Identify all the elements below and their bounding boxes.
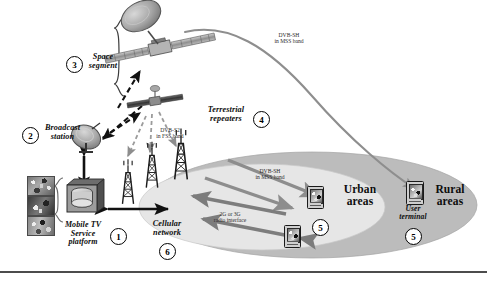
- callout-number-user-terminal-rural: 5: [405, 228, 422, 245]
- mobile-tv-platform-icon: [67, 179, 104, 212]
- rural-areas-label-line2: areas: [437, 195, 463, 207]
- user-handset-cellular: [284, 225, 301, 248]
- repeater-downlink-label-line2: in MSS band: [255, 174, 284, 180]
- user-handset-urban: [307, 186, 324, 209]
- rural-areas-label-line1: Rural: [435, 183, 464, 195]
- diagram-canvas: 3 Space segment 2 Broadcast station Mobi…: [0, 0, 487, 282]
- space-segment-label-line1: Space: [93, 52, 114, 61]
- repeater-downlink-label-line1: DVB-SH: [260, 168, 281, 174]
- user-terminal-label-line2: terminal: [399, 212, 426, 221]
- callout-number-space-segment: 3: [66, 56, 83, 73]
- feeder-uplink-label-line1: DVB-S2: [160, 127, 180, 133]
- mobile-tv-platform-label: Mobile TV Service platform: [55, 221, 111, 247]
- urban-areas-label: Urban areas: [333, 183, 387, 208]
- urban-areas-label-line2: areas: [347, 195, 373, 207]
- terrestrial-repeaters-label: Terrestrial repeaters: [199, 106, 253, 124]
- feeder-uplink-label-line2: in FSS band: [156, 133, 183, 139]
- content-sources-brace: [54, 178, 63, 222]
- callout-number-mobile-tv-platform: 1: [110, 228, 127, 245]
- content-thumbnail-1: [27, 176, 55, 196]
- callout-number-broadcast-station: 2: [22, 127, 39, 144]
- content-thumbnail-2: [27, 196, 55, 216]
- cellular-network-label-line2: network: [153, 228, 181, 237]
- broadcast-station-label: Broadcast station: [40, 124, 85, 142]
- feeder-uplink-label: DVB-S2 in FSS band: [144, 127, 196, 140]
- terrestrial-repeaters-label-line2: repeaters: [210, 114, 242, 123]
- content-thumbnail-3: [27, 216, 55, 236]
- callout-number-user-terminal-urban: 5: [312, 219, 329, 236]
- space-segment-label-line2: segment: [89, 61, 117, 70]
- mobile-tv-platform-label-line3: platform: [68, 237, 97, 246]
- rural-areas-label: Rural areas: [424, 183, 476, 208]
- cellular-return-label-line1: 2G or 3G: [219, 211, 240, 217]
- broadcast-station-label-line1: Broadcast: [45, 123, 80, 132]
- satellite-downlink-label: DVB-SH in MSS band: [258, 32, 320, 45]
- repeater-downlink-label: DVB-SH in MSS band: [240, 168, 300, 181]
- cellular-network-tower: [122, 159, 133, 204]
- terrestrial-repeaters-label-line1: Terrestrial: [208, 105, 244, 114]
- satellite-secondary-icon: [127, 86, 184, 110]
- cellular-network-label-line1: Cellular: [153, 219, 182, 228]
- broadcast-station-label-line2: station: [51, 132, 74, 141]
- space-segment-label: Space segment: [84, 53, 122, 71]
- urban-areas-label-line1: Urban: [344, 183, 376, 195]
- satellite-downlink-label-line2: in MSS band: [274, 38, 303, 44]
- user-terminal-rural: [406, 181, 424, 205]
- cellular-return-label-line2: radio interface: [214, 217, 246, 223]
- cellular-network-label: Cellular network: [140, 220, 194, 238]
- callout-number-terrestrial-repeaters: 4: [253, 111, 270, 128]
- satellite-downlink-label-line1: DVB-SH: [279, 32, 300, 38]
- cellular-return-label: 2G or 3G radio interface: [197, 211, 263, 224]
- callout-number-cellular-network: 6: [159, 243, 176, 260]
